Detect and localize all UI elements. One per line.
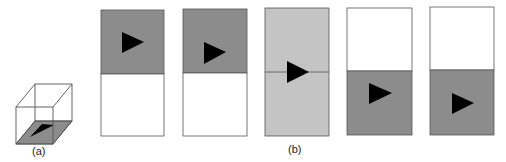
panel-5 [430,7,494,135]
panel-1 [101,10,164,136]
cube-diagram [16,84,72,144]
label-a: (a) [32,145,45,157]
panel-3 [265,8,329,136]
panel-2 [183,9,247,136]
panel-4 [347,8,412,135]
figure-canvas [0,0,506,162]
cube-back-face [35,84,72,121]
label-b: (b) [288,143,301,155]
